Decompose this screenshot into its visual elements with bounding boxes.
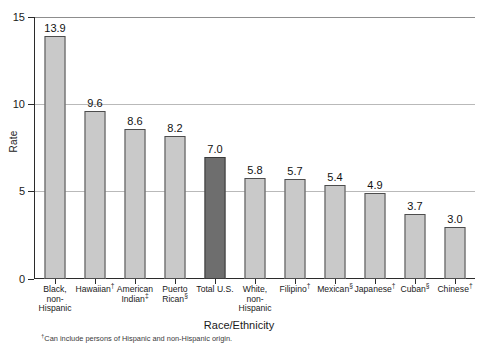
bar-value-label: 4.9 [367,179,382,191]
bar-group: 4.9 [355,17,395,279]
bar-group: 5.4 [315,17,355,279]
bar-value-label: 13.9 [44,22,65,34]
bar [125,129,146,279]
bar-value-label: 5.4 [327,171,342,183]
bar [165,136,186,279]
bar [325,185,346,279]
bar-group: 8.2 [155,17,195,279]
bar-group: 3.7 [395,17,435,279]
bar [205,157,226,279]
bar [445,227,466,279]
y-axis-title: Rate [8,112,19,172]
footnote-text: Can include persons of Hispanic and non-… [44,334,232,343]
bar-value-label: 3.0 [447,213,462,225]
bar [285,179,306,279]
bar-group: 5.7 [275,17,315,279]
bar [405,214,426,279]
bar-group: 3.0 [435,17,475,279]
bar-value-label: 8.2 [167,122,182,134]
plot-area: 15 10 5 0 13.99.68.68.27.05.85.75.44.93.… [34,17,475,279]
bar-value-label: 7.0 [207,143,222,155]
bar-group: 9.6 [75,17,115,279]
bar [365,193,386,279]
bar-value-label: 5.7 [287,165,302,177]
bar [245,178,266,279]
x-axis-title: Race/Ethnicity [0,319,478,331]
bar-group: 7.0 [195,17,235,279]
bar-value-label: 3.7 [407,200,422,212]
bars-layer: 13.99.68.68.27.05.85.75.44.93.73.0 [35,17,475,279]
y-tick-label-10: 10 [13,98,25,110]
bar-value-label: 5.8 [247,164,262,176]
bar-value-label: 9.6 [87,97,102,109]
y-tick-label-0: 0 [19,273,25,285]
x-axis-category-label: Chinese† [428,285,478,295]
bar [85,111,106,279]
bar [45,36,66,279]
footnote: †Can include persons of Hispanic and non… [41,334,232,343]
bar-group: 8.6 [115,17,155,279]
y-tick-label-5: 5 [19,185,25,197]
bar-group: 13.9 [35,17,75,279]
bar-group: 5.8 [235,17,275,279]
y-tick-label-15: 15 [13,11,25,23]
bar-value-label: 8.6 [127,115,142,127]
bar-chart: Rate 15 10 5 0 13.99.68.68.27.05.85.75.4… [0,0,478,344]
